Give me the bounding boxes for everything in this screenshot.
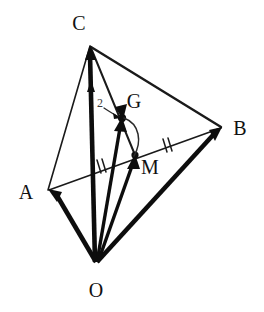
vector-o-m: [98, 166, 132, 262]
label-vertex-a: A: [19, 181, 34, 203]
label-vertex-o: O: [89, 279, 103, 301]
geometry-diagram: C B A O G M 2: [0, 0, 264, 312]
brace-g-to-m: [124, 118, 139, 156]
arrowhead-o-c-mid: [87, 80, 95, 92]
tetrahedron-figure: C B A O G M 2: [0, 0, 264, 312]
tick-mark-mb-2: [168, 138, 172, 151]
edge-a-c: [48, 46, 90, 190]
label-point-g: G: [127, 90, 141, 112]
arrowhead-o-c: [85, 45, 96, 60]
tick-mark-mb-1: [163, 139, 167, 152]
brace-group: [124, 118, 139, 156]
label-vertex-c: C: [72, 12, 85, 34]
label-ratio-two: 2: [97, 96, 103, 110]
vector-o-a: [56, 194, 96, 262]
tick-mark-am-1: [97, 160, 101, 173]
label-point-m: M: [141, 156, 159, 178]
label-vertex-b: B: [233, 117, 246, 139]
edge-c-b: [91, 47, 221, 127]
